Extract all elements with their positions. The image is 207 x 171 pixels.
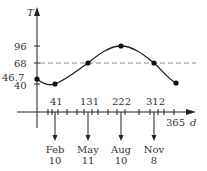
- y-tick-40: 40: [14, 80, 27, 91]
- date-month: Feb: [46, 144, 65, 155]
- x-axis-arrow-icon: [186, 109, 196, 115]
- data-point: [34, 76, 39, 81]
- date-month: May: [77, 144, 99, 155]
- x-tick-131: 131: [80, 96, 99, 107]
- y-axis-arrow-icon: [34, 7, 40, 16]
- arrow-down-icon: [152, 135, 157, 141]
- data-point: [85, 60, 90, 65]
- date-month: Nov: [144, 144, 165, 155]
- x-tick-312: 312: [146, 96, 165, 107]
- y-tick-96: 96: [14, 41, 27, 52]
- data-point: [118, 43, 123, 48]
- date-day: 10: [115, 155, 128, 166]
- date-month: Aug: [110, 144, 132, 155]
- temperature-curve: [37, 46, 176, 85]
- date-day: 10: [49, 155, 62, 166]
- x-tick-365: 365: [166, 117, 185, 128]
- data-point: [151, 60, 156, 65]
- arrow-down-icon: [119, 135, 124, 141]
- y-axis: T 96 68 46.7 40: [2, 7, 40, 128]
- date-day: 8: [151, 155, 157, 166]
- data-point: [173, 80, 178, 85]
- y-tick-68: 68: [14, 58, 27, 69]
- x-axis: 41 131 222 312 365 d: [17, 96, 196, 128]
- arrow-down-icon: [86, 135, 91, 141]
- arrow-down-icon: [53, 135, 58, 141]
- data-point: [52, 81, 57, 86]
- x-axis-label: d: [190, 117, 196, 128]
- date-labels: Feb 10 May 11 Aug 10 Nov 8: [46, 144, 165, 166]
- date-arrows: [55, 112, 154, 137]
- date-day: 11: [82, 155, 95, 166]
- x-tick-41: 41: [50, 96, 63, 107]
- y-axis-label: T: [27, 7, 35, 18]
- x-tick-222: 222: [112, 96, 131, 107]
- chart: T 96 68 46.7 40: [0, 0, 207, 171]
